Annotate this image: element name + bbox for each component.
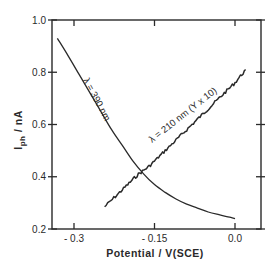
series-line-210nm [105,70,246,207]
label-390nm: λ = 390 nm [81,76,113,123]
series-line-390nm [57,38,235,218]
y-tick-label: 0.4 [32,171,46,182]
y-tick-label: 0.6 [32,119,46,130]
y-axis-ticks: 0.20.40.60.81.0 [32,15,265,235]
x-tick-label: 0.0 [228,233,242,244]
x-tick-label: - 0.3 [64,233,84,244]
y-tick-label: 0.8 [32,67,46,78]
y-tick-label: 0.2 [32,224,46,235]
plot-frame [52,20,261,229]
photocurrent-chart: 0.20.40.60.81.0 - 0.3- 0.150.0 λ = 390 n… [0,0,274,267]
y-axis-label-unit: / nA [12,110,24,135]
y-tick-label: 1.0 [32,15,46,26]
label-210nm: λ = 210 nm (Y x 10) [146,85,218,145]
x-axis-label: Potential / V(SCE) [106,247,204,259]
x-tick-label: - 0.15 [142,233,168,244]
y-axis-label-sub: ph [18,136,27,147]
data-series [57,38,245,218]
plot-border [52,20,261,229]
y-axis-label: Iph / nA [12,110,27,149]
curve-labels: λ = 390 nmλ = 210 nm (Y x 10) [81,76,218,145]
